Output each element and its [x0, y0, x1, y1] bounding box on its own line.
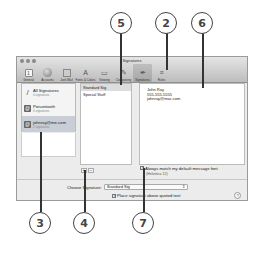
account-item-all-signatures[interactable]: / All Signatures 4 signatures: [22, 84, 75, 100]
callout-line: [84, 170, 86, 212]
rules-icon: ≡: [157, 68, 167, 77]
toolbar-junk-mail[interactable]: Junk Mail: [57, 64, 76, 82]
junk-mail-icon: [62, 68, 72, 77]
help-button[interactable]: ?: [234, 192, 241, 199]
default-font-label: (Helvetica 12): [146, 172, 168, 176]
signatures-icon: ✒: [138, 68, 148, 77]
callout-4: 4: [73, 212, 95, 234]
signature-list: Standard Sig Special Stuff: [80, 83, 132, 165]
toolbar-signatures[interactable]: ✒ Signatures: [133, 64, 152, 82]
account-item-johnray[interactable]: @ johnray@me.com 2 signatures: [22, 116, 75, 132]
callout-line: [202, 32, 204, 88]
signature-item[interactable]: Special Stuff: [81, 91, 131, 98]
accounts-list: / All Signatures 4 signatures @ Poisonto…: [21, 83, 76, 132]
match-font-option: ✓ Always match my default message font: [140, 166, 218, 171]
place-above-checkbox[interactable]: ✓: [112, 194, 116, 198]
callout-7: 7: [132, 212, 154, 234]
toolbar-fonts-colors[interactable]: A Fonts & Colors: [76, 64, 95, 82]
callout-line: [120, 32, 122, 85]
pen-icon: /: [24, 89, 31, 96]
toolbar-rules[interactable]: ≡ Rules: [152, 64, 171, 82]
fonts-colors-icon: A: [81, 68, 91, 77]
divider: [17, 179, 247, 180]
toolbar-composing[interactable]: ✎ Composing: [114, 64, 133, 82]
viewing-icon: ▭: [100, 68, 110, 77]
callout-6: 6: [191, 12, 213, 34]
preferences-toolbar: 1 General Accounts Junk Mail A Fonts & C…: [19, 64, 171, 82]
signature-item[interactable]: Standard Sig: [81, 84, 131, 91]
callout-5: 5: [110, 12, 132, 34]
callout-line: [143, 168, 145, 212]
callout-2: 2: [155, 12, 177, 34]
toolbar-accounts[interactable]: Accounts: [38, 64, 57, 82]
callout-3: 3: [29, 212, 51, 234]
general-icon: 1: [24, 68, 34, 77]
callout-line: [40, 132, 42, 212]
account-item-poisontooth[interactable]: @ Poisontooth 0 signatures: [22, 100, 75, 116]
choose-signature-select[interactable]: Standard Sig ⇕: [104, 184, 188, 190]
titlebar: Signatures 1 General Accounts Junk Mail …: [17, 57, 247, 83]
select-arrows-icon: ⇕: [182, 185, 185, 189]
account-icon: @: [24, 105, 31, 112]
callout-line: [166, 32, 168, 70]
place-above-option: ✓ Place signature above quoted text: [112, 193, 180, 198]
toolbar-viewing[interactable]: ▭ Viewing: [95, 64, 114, 82]
remove-signature-button[interactable]: −: [88, 168, 94, 173]
accounts-list-empty-area: [21, 133, 76, 157]
signatures-preferences-window: Signatures 1 General Accounts Junk Mail …: [16, 56, 248, 201]
account-icon: @: [24, 121, 31, 128]
window-title: Signatures: [17, 58, 247, 63]
signature-editor[interactable]: John Ray 555-555-5555 johnray@mac.com: [139, 83, 245, 165]
toolbar-general[interactable]: 1 General: [19, 64, 38, 82]
add-remove-buttons: + −: [81, 168, 94, 173]
accounts-icon: [43, 68, 53, 77]
